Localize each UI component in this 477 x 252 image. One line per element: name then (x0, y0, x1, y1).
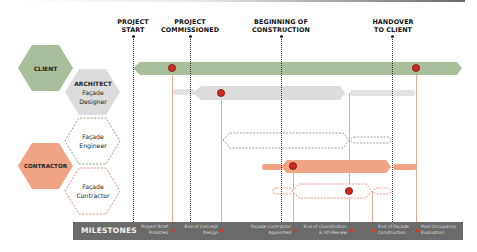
milestones-bar: MILESTONES Project Brief Finalized End o… (73, 222, 463, 240)
actor-label-contractor: CONTRACTOR (16, 162, 75, 171)
milestone-label-line: Appointed (241, 230, 291, 236)
milestone-marker (372, 229, 375, 232)
milestone-dot-contractor-appointed (289, 162, 296, 169)
actor-label-client: CLIENT (18, 64, 73, 73)
actor-label-line: Façade (65, 182, 121, 191)
milestone-label-line: Evaluation (421, 230, 463, 236)
bar-facade-contractor-pre (273, 188, 292, 194)
milestone-label-line: & SD Review (297, 230, 347, 236)
milestone-marker (171, 229, 174, 232)
milestone-marker (350, 229, 353, 232)
actor-label-facade-engineer: Façade Engineer (65, 132, 121, 150)
actor-label-line: Engineer (65, 141, 121, 150)
bar-contractor-main (281, 160, 391, 173)
milestone-label-line: Finalized (128, 230, 168, 236)
actor-label-facade-contractor: Façade Contractor (65, 182, 121, 200)
bar-architect-pre (173, 89, 195, 95)
bar-architect-main (193, 86, 345, 100)
milestone-dot-project-brief (168, 64, 175, 71)
milestone-marker (416, 229, 419, 232)
milestone-dot-end-coordination (345, 187, 352, 194)
milestone-label-post-occupancy: Post Occupancy Evaluation (421, 224, 463, 236)
milestone-dot-end-concept (217, 89, 224, 96)
milestone-label-end-concept: End of Concept Design (176, 224, 218, 236)
milestone-marker (293, 229, 296, 232)
bar-facade-contractor-main (292, 184, 372, 198)
milestone-label-end-facade-construction: End of Façade Construction (378, 224, 420, 236)
actor-label-architect: ARCHITECT Façade Designer (65, 79, 121, 106)
actor-label-line: Façade (65, 88, 121, 97)
milestone-label-contractor-appointed: Façade Contractor Appointed (241, 224, 291, 236)
actor-label-line: Designer (65, 97, 121, 106)
actor-label-line: Façade (65, 132, 121, 141)
actor-label-line: ARCHITECT (65, 79, 121, 88)
phase-line-project-start (133, 36, 134, 222)
actor-label-line: Contractor (65, 191, 121, 200)
bar-contractor-pre (262, 164, 282, 170)
milestone-marker (220, 229, 223, 232)
timeline-graphics (0, 0, 477, 252)
bar-architect-post (350, 90, 415, 96)
milestone-label-line: Design (176, 230, 218, 236)
bar-facade-engineer-post (351, 137, 391, 143)
bar-facade-engineer-main (223, 133, 349, 148)
milestone-label-end-coordination: End of Coordination & SD Review (297, 224, 347, 236)
bar-facade-contractor-post (374, 188, 391, 194)
milestone-dot-post-occupancy (412, 64, 419, 71)
actor-label-line: CONTRACTOR (16, 162, 75, 171)
bar-contractor-post (393, 164, 417, 170)
milestone-label-line: Construction (378, 230, 420, 236)
phase-line-handover (392, 36, 393, 222)
milestone-label-project-brief: Project Brief Finalized (128, 224, 168, 236)
phase-line-beginning-construction (281, 36, 282, 222)
actor-label-line: CLIENT (18, 64, 73, 73)
phase-line-project-commissioned (190, 36, 191, 222)
